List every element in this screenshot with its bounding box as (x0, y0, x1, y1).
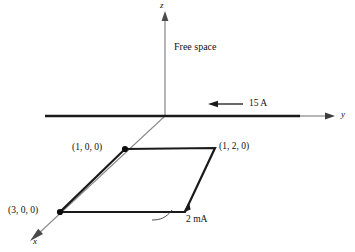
loop-current-label: 2 mA (186, 215, 207, 225)
y-axis-arrowhead (325, 112, 335, 119)
z-axis-label: z (160, 1, 164, 10)
current-loop-outline (60, 148, 215, 212)
z-axis-arrowhead (162, 11, 169, 21)
point-label-1-2-0: (1, 2, 0) (219, 142, 249, 152)
wire-current-label: 15 A (249, 99, 267, 109)
y-axis-label: y (341, 110, 345, 119)
x-axis-label: x (33, 237, 37, 246)
x-axis-line (37, 116, 165, 235)
wire-current-arrow-head (208, 101, 218, 107)
vertex-dot-3-0-0 (57, 209, 63, 215)
diagram-canvas (0, 0, 355, 252)
point-label-3-0-0: (3, 0, 0) (8, 206, 38, 216)
physics-diagram-figure: z y x Free space 15 A 2 mA (1, 0, 0) (1,… (0, 0, 355, 252)
free-space-label: Free space (174, 42, 216, 52)
point-label-1-0-0: (1, 0, 0) (72, 143, 102, 153)
vertex-dot-1-0-0 (122, 146, 128, 152)
